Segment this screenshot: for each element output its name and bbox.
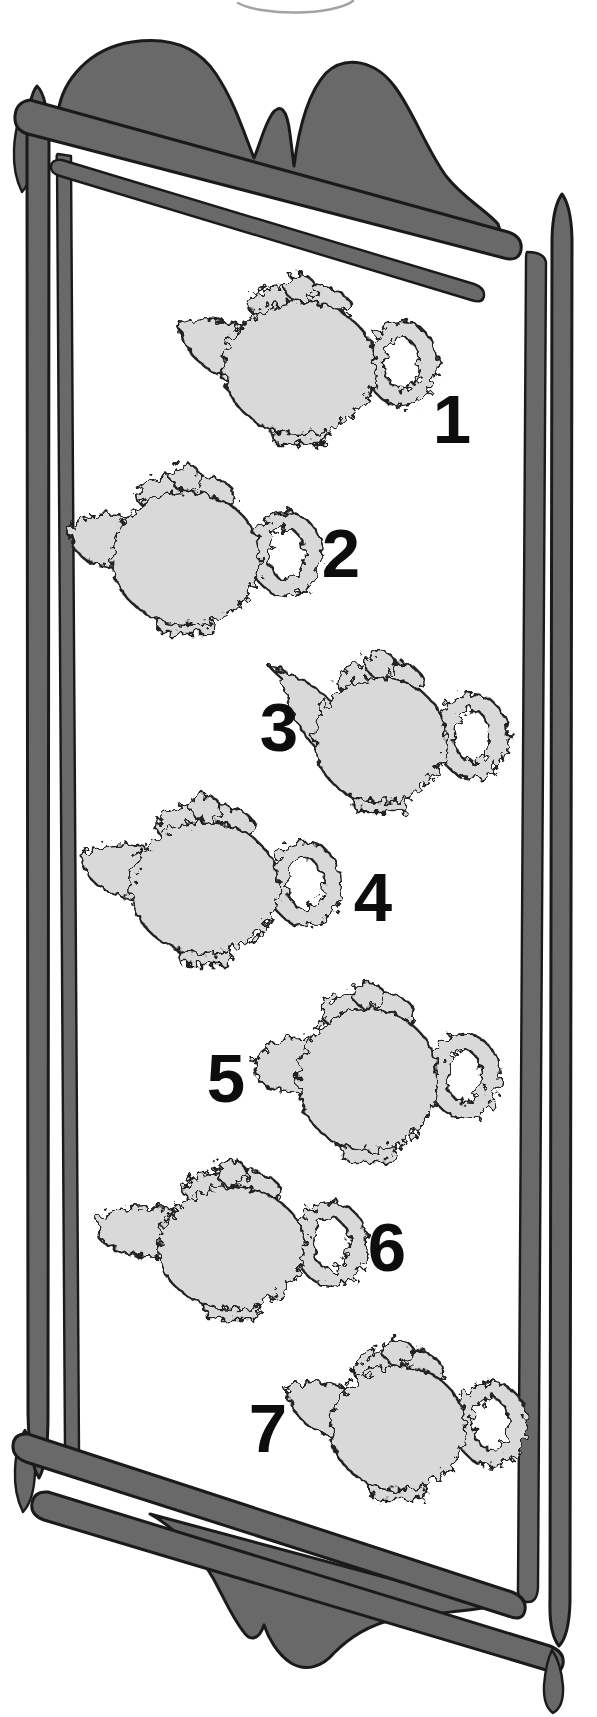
- teapot-2: [67, 465, 322, 634]
- teapot-number-3: 3: [260, 689, 298, 766]
- teapot-number-4: 4: [354, 859, 392, 936]
- teapot-lid-knob: [383, 1339, 413, 1365]
- teapot-1: [177, 275, 438, 444]
- teapot-body: [131, 822, 279, 954]
- teapot-puzzle-illustration: 1234567: [0, 0, 597, 1717]
- frame-right-outer-post: [550, 194, 572, 1646]
- frame-right-inner-post: [518, 252, 546, 1602]
- teapot-lid-knob: [285, 275, 315, 301]
- teapot-number-1: 1: [433, 381, 471, 458]
- teapot-body: [331, 1366, 465, 1490]
- teapot-number-2: 2: [322, 515, 360, 592]
- teapot-body: [298, 1009, 438, 1151]
- frame-left-inner-post: [57, 154, 79, 1459]
- teapot-lid-knob: [171, 465, 201, 491]
- teapots-layer: [67, 275, 527, 1500]
- page-circle-arc: [238, 1, 353, 13]
- teapot-lid-knob: [353, 982, 383, 1008]
- teapot-5: [254, 982, 500, 1161]
- teapot-body: [224, 302, 376, 434]
- teapot-body: [159, 1187, 305, 1309]
- puzzle-page: 1234567: [0, 0, 597, 1717]
- teapot-6: [96, 1160, 367, 1319]
- teapot-lid-knob: [365, 651, 395, 677]
- teapot-number-5: 5: [207, 1040, 245, 1117]
- teapot-4: [81, 795, 341, 964]
- teapot-body: [112, 492, 260, 624]
- teapot-7: [285, 1339, 527, 1500]
- teapot-body: [314, 678, 446, 802]
- frame-left-outer-post: [27, 86, 49, 1478]
- teapot-number-7: 7: [249, 1390, 287, 1467]
- teapot-3: [270, 651, 508, 812]
- teapot-lid-knob: [217, 1160, 247, 1186]
- teapot-number-6: 6: [368, 1209, 406, 1286]
- teapot-lid-knob: [190, 795, 220, 821]
